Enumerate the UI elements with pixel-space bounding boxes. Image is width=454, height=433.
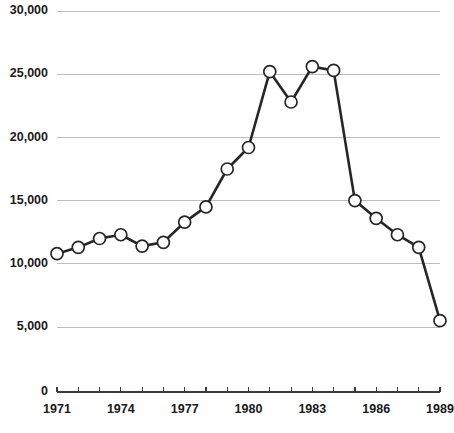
x-axis-label-1971: 1971 — [43, 402, 71, 416]
y-axis-label-30000: 30,000 — [10, 3, 48, 17]
x-axis-label-1980: 1980 — [235, 402, 263, 416]
data-point-marker-1973 — [94, 233, 106, 245]
data-point-marker-1971 — [51, 248, 63, 260]
data-point-marker-1981 — [264, 66, 276, 78]
line-chart-figure: 30,00025,00020,00015,00010,0005,0000 197… — [0, 0, 454, 433]
data-point-marker-1976 — [157, 236, 169, 248]
data-point-marker-1982 — [285, 96, 297, 108]
y-axis-label-5000: 5,000 — [17, 319, 48, 333]
y-axis-label-25000: 25,000 — [10, 66, 48, 80]
y-axis-label-15000: 15,000 — [10, 193, 48, 207]
chart-canvas: 30,00025,00020,00015,00010,0005,0000 197… — [0, 0, 454, 433]
data-point-marker-1983 — [306, 61, 318, 73]
chart-background — [0, 0, 454, 433]
data-point-marker-1987 — [391, 229, 403, 241]
x-axis-label-1983: 1983 — [298, 402, 326, 416]
data-point-marker-1977 — [179, 216, 191, 228]
data-point-marker-1980 — [243, 142, 255, 154]
x-axis-label-1986: 1986 — [362, 402, 390, 416]
data-point-marker-1979 — [221, 163, 233, 175]
data-point-marker-1986 — [370, 212, 382, 224]
data-point-marker-1975 — [136, 240, 148, 252]
data-point-marker-1988 — [413, 241, 425, 253]
y-axis-label-0: 0 — [41, 384, 48, 398]
data-point-marker-1989 — [434, 315, 446, 327]
data-point-marker-1984 — [328, 64, 340, 76]
y-axis-label-10000: 10,000 — [10, 256, 48, 270]
y-axis-label-20000: 20,000 — [10, 130, 48, 144]
data-point-marker-1972 — [72, 241, 84, 253]
x-axis-label-1977: 1977 — [171, 402, 199, 416]
x-axis-label-1974: 1974 — [107, 402, 135, 416]
data-point-marker-1974 — [115, 229, 127, 241]
data-point-marker-1985 — [349, 195, 361, 207]
x-axis-label-1989: 1989 — [426, 402, 454, 416]
data-point-marker-1978 — [200, 201, 212, 213]
